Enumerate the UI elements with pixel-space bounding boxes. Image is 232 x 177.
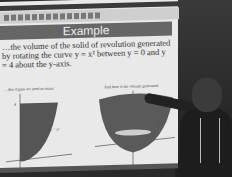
toolbar-icon — [67, 13, 72, 19]
toolbar-icon — [81, 13, 86, 19]
toolbar-icon — [60, 13, 65, 19]
toolbar-icon — [18, 14, 23, 20]
presenter-head — [192, 78, 222, 112]
presenter — [140, 78, 232, 177]
toolbar-icon — [32, 14, 37, 20]
caption-left: …this region we need to rotate: — [4, 86, 55, 92]
lanyard — [200, 118, 220, 163]
toolbar-icon — [39, 14, 44, 20]
toolbar-icon — [74, 13, 79, 19]
region-graph: y = x² 4 — [6, 92, 72, 169]
toolbar-icon — [25, 14, 30, 20]
toolbar-icon — [95, 12, 100, 18]
slide-body-text: …the volume of the solid of revolution g… — [2, 38, 172, 69]
toolbar-icon — [46, 14, 51, 20]
svg-text:y = x²: y = x² — [50, 126, 60, 131]
toolbar-icon — [4, 15, 9, 21]
toolbar-icon — [53, 13, 58, 19]
toolbar-icon — [88, 13, 93, 19]
toolbar-icon — [11, 15, 16, 21]
svg-text:4: 4 — [14, 102, 16, 107]
photo: Example …the volume of the solid of revo… — [0, 0, 232, 177]
